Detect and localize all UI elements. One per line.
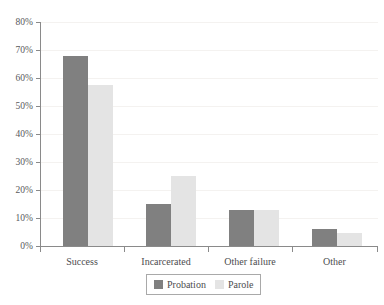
x-tick-mark-4 [377,247,378,252]
bar-parole-other-failure[interactable] [254,210,279,246]
legend-label-probation: Probation [167,279,206,290]
bar-probation-other-failure[interactable] [229,210,254,246]
bar-probation-success[interactable] [63,56,88,246]
legend-swatch-icon-probation [154,280,163,289]
x-category-label-incarcerated: Incarcerated [124,256,208,268]
x-category-label-success: Success [40,256,124,268]
y-tick-label-70: 70% [0,45,33,55]
legend-label-parole: Parole [228,279,254,290]
x-tick-mark-0 [40,247,41,252]
y-tick-label-0: 0% [0,241,33,251]
bars-layer [41,22,378,246]
y-tick-label-50: 50% [0,101,33,111]
legend-item-probation[interactable]: Probation [154,279,206,290]
x-tick-mark-1 [124,247,125,252]
y-tick-label-40: 40% [0,129,33,139]
bar-probation-incarcerated[interactable] [146,204,171,246]
y-tick-label-20: 20% [0,185,33,195]
x-axis-line [40,246,378,247]
legend-swatch-icon-parole [215,280,224,289]
bar-parole-incarcerated[interactable] [171,176,196,246]
bar-probation-other[interactable] [312,229,337,246]
legend-item-parole[interactable]: Parole [215,279,254,290]
x-category-label-other-failure: Other failure [208,256,292,268]
bar-parole-success[interactable] [88,85,113,246]
y-tick-label-30: 30% [0,157,33,167]
x-tick-mark-2 [208,247,209,252]
y-tick-label-10: 10% [0,213,33,223]
bar-chart: 80% 70% 60% 50% 40% 30% 20% 10% 0% Succe… [0,0,384,305]
y-tick-label-60: 60% [0,73,33,83]
legend: Probation Parole [146,274,261,295]
bar-parole-other[interactable] [337,233,362,246]
x-category-label-other: Other [292,256,377,268]
y-tick-label-80: 80% [0,17,33,27]
x-tick-mark-3 [292,247,293,252]
